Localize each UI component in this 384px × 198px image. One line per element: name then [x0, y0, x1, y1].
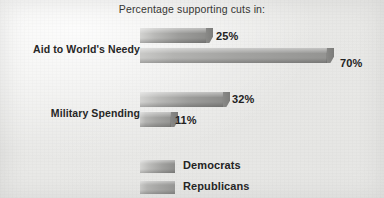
swatch-shadow: [140, 169, 175, 173]
bar-end-cap: [205, 28, 213, 43]
category-label-aid-to-worlds-needy: Aid to World's Needy: [33, 43, 140, 55]
value-label-military-republicans: 11%: [175, 114, 197, 126]
swatch-highlight: [140, 181, 175, 185]
swatch-highlight: [140, 160, 175, 164]
bar-military-democrats: [140, 92, 230, 107]
chart-container: Percentage supporting cuts in: Aid to Wo…: [0, 0, 384, 198]
value-label-aid-republicans: 70%: [340, 57, 362, 69]
swatch-shadow: [140, 190, 175, 194]
bar-face: [140, 112, 171, 127]
value-label-military-democrats: 32%: [232, 93, 254, 105]
bar-aid-democrats: [140, 28, 213, 43]
bar-face: [140, 48, 327, 63]
legend-swatch-democrats: [140, 160, 175, 173]
bar-face: [140, 28, 206, 43]
legend-swatch-republicans: [140, 181, 175, 194]
bar-military-republicans: [140, 112, 178, 127]
bar-end-cap: [222, 92, 230, 107]
bar-aid-republicans: [140, 48, 334, 63]
value-label-aid-democrats: 25%: [216, 30, 238, 42]
chart-title: Percentage supporting cuts in:: [0, 3, 384, 15]
legend-label-democrats: Democrats: [183, 159, 241, 171]
bar-end-cap: [326, 48, 334, 63]
bar-face: [140, 92, 223, 107]
legend-label-republicans: Republicans: [183, 180, 250, 192]
category-label-military-spending: Military Spending: [51, 107, 140, 119]
